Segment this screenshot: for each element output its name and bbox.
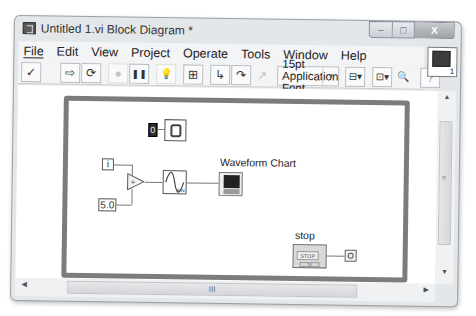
step-into-icon[interactable]: ↳	[210, 64, 230, 84]
block-diagram-window: Untitled 1.vi Block Diagram * – □ X File…	[10, 15, 462, 307]
labview-app-icon	[23, 22, 36, 34]
wire	[157, 129, 164, 130]
wire	[327, 255, 345, 256]
step-out-icon[interactable]: ↗	[252, 65, 272, 85]
vi-icon-number: 1	[450, 67, 455, 76]
run-arrow-icon[interactable]: ⇨	[60, 62, 80, 82]
menu-view[interactable]: View	[91, 45, 118, 59]
align-objects-icon[interactable]: ⊟▾	[345, 66, 365, 86]
scroll-right-icon[interactable]: ▶	[419, 286, 433, 294]
menu-help[interactable]: Help	[341, 48, 367, 62]
divide-function-icon[interactable]: ÷	[127, 173, 145, 191]
block-diagram-canvas[interactable]: 0 i ÷ 5.0 SIN Waveform Chart	[15, 85, 438, 284]
zero-constant[interactable]: 0	[148, 123, 157, 137]
vi-icon[interactable]: 1	[427, 47, 457, 77]
stop-label: stop	[295, 229, 315, 241]
zoom-icon[interactable]: 🔍	[393, 67, 413, 87]
divide-symbol: ÷	[131, 178, 136, 187]
abort-execution-icon[interactable]: ●	[108, 63, 128, 83]
stop-button-terminal[interactable]: STOP TF	[292, 244, 326, 268]
sine-function-icon[interactable]: SIN	[163, 170, 187, 194]
pause-icon[interactable]: ❚❚	[129, 63, 149, 83]
chevron-down-icon[interactable]: ▾	[322, 67, 338, 85]
scroll-left-icon[interactable]: ◀	[17, 280, 31, 288]
waveform-chart-label: Waveform Chart	[220, 156, 296, 169]
font-select[interactable]: 15pt Application Font ▾	[277, 65, 340, 86]
wait-ms-icon[interactable]	[164, 119, 186, 141]
vertical-scrollbar[interactable]: ▲ ≡ ▼	[435, 91, 456, 284]
vertical-scroll-thumb[interactable]: ≡	[438, 121, 453, 245]
loop-condition-terminal[interactable]	[345, 250, 357, 262]
menu-tools[interactable]: Tools	[241, 47, 270, 61]
close-button[interactable]: X	[415, 22, 455, 40]
menu-edit[interactable]: Edit	[57, 44, 79, 58]
scroll-up-icon[interactable]: ▲	[438, 93, 456, 107]
window-title: Untitled 1.vi Block Diagram *	[41, 21, 193, 37]
retain-wire-values-icon[interactable]: ⊞	[183, 64, 203, 84]
step-over-icon[interactable]: ↷	[231, 65, 251, 85]
scroll-down-icon[interactable]: ▼	[435, 268, 453, 282]
wire	[116, 204, 131, 205]
vi-icon-graphic	[432, 51, 450, 67]
divisor-constant[interactable]: 5.0	[98, 198, 116, 211]
waveform-chart-terminal[interactable]	[218, 172, 242, 196]
run-continuously-icon[interactable]: ⟳	[81, 62, 101, 82]
menu-operate[interactable]: Operate	[183, 46, 228, 61]
window-controls: – □ X	[369, 21, 455, 40]
iteration-terminal[interactable]: i	[102, 158, 114, 170]
horizontal-scroll-thumb[interactable]: III	[67, 281, 357, 298]
wire	[131, 189, 132, 205]
maximize-button[interactable]: □	[393, 21, 415, 38]
distribute-objects-icon[interactable]: ⊡▾	[372, 67, 392, 87]
wire	[145, 182, 163, 183]
minimize-button[interactable]: –	[369, 21, 393, 38]
menu-project[interactable]: Project	[131, 45, 170, 60]
menu-file[interactable]: File	[23, 44, 43, 58]
run-check-icon[interactable]: ✓	[21, 62, 41, 82]
highlight-execution-icon[interactable]: 💡	[156, 63, 176, 83]
